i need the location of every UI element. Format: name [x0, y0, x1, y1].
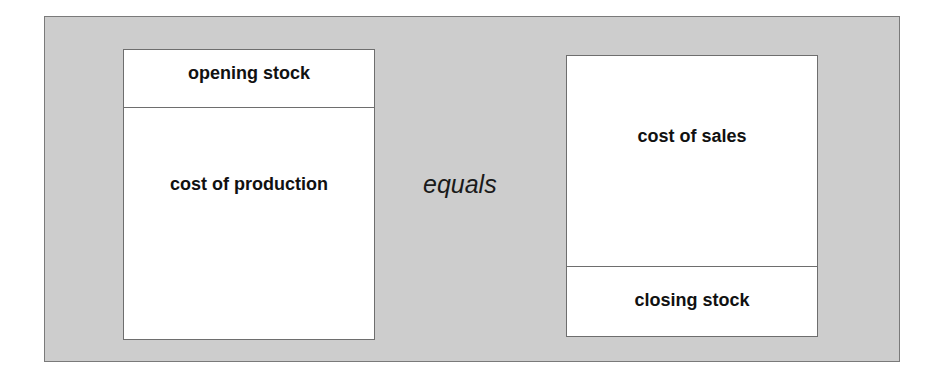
right-divider	[567, 266, 817, 267]
right-box: cost of sales closing stock	[566, 55, 818, 337]
opening-stock-label: opening stock	[124, 63, 374, 84]
cost-of-sales-label: cost of sales	[567, 126, 817, 147]
left-divider	[124, 107, 374, 108]
closing-stock-label: closing stock	[567, 290, 817, 311]
left-box: opening stock cost of production	[123, 49, 375, 340]
cost-of-production-label: cost of production	[124, 174, 374, 195]
equals-label: equals	[423, 170, 497, 199]
